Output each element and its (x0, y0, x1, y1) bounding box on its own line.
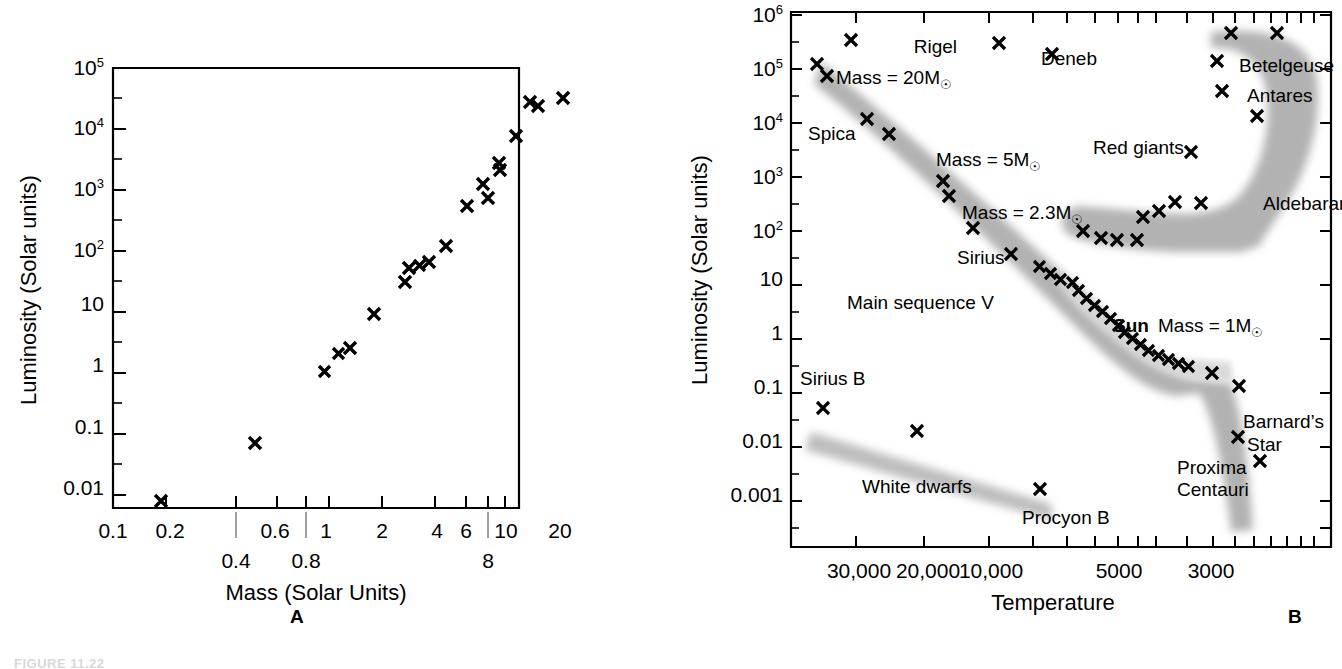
svg-text:0.8: 0.8 (291, 549, 320, 572)
svg-text:Sun: Sun (1113, 315, 1149, 336)
panel-b-x-labels: 30,000 20,000 10,000 5000 3000 (827, 559, 1234, 582)
data-point (1034, 483, 1046, 495)
svg-text:Barnard’s: Barnard’s (1243, 411, 1324, 432)
data-point (911, 425, 923, 437)
data-point (817, 402, 829, 414)
svg-text:0.2: 0.2 (155, 519, 184, 542)
panel-a-y-minor-ticks (113, 98, 122, 464)
svg-text:4: 4 (431, 519, 443, 542)
svg-text:Aldebaran: Aldebaran (1263, 193, 1342, 214)
svg-text:0.4: 0.4 (221, 549, 251, 572)
data-point (557, 92, 569, 104)
data-point (440, 240, 452, 252)
svg-text:Red giants: Red giants (1093, 137, 1184, 158)
data-point (477, 178, 489, 190)
svg-text:Mass = 1M☉: Mass = 1M☉ (1158, 315, 1263, 340)
panel-a-xlabel: Mass (Solar Units) (226, 580, 407, 605)
panel-a-frame (113, 68, 519, 508)
svg-text:Betelgeuse: Betelgeuse (1239, 55, 1334, 76)
svg-text:0.001: 0.001 (730, 483, 783, 506)
svg-text:3000: 3000 (1188, 559, 1235, 582)
svg-text:Mass = 20M☉: Mass = 20M☉ (836, 67, 952, 92)
data-point (845, 34, 857, 46)
svg-text:Sirius: Sirius (957, 247, 1005, 268)
figure-caption: FIGURE 11.22 (14, 656, 105, 669)
data-point (368, 308, 380, 320)
panel-a-letter: A (290, 606, 304, 628)
data-point (993, 37, 1005, 49)
svg-text:Centauri: Centauri (1177, 479, 1249, 500)
svg-text:Rigel: Rigel (914, 36, 957, 57)
panel-b-x-ticks (856, 536, 1314, 547)
svg-text:1: 1 (320, 519, 332, 542)
svg-text:1: 1 (771, 321, 783, 344)
data-point (249, 437, 261, 449)
svg-text:105: 105 (73, 55, 104, 79)
svg-text:30,000: 30,000 (827, 559, 891, 582)
panel-a-plot: 105 104 103 102 10 1 0.1 0.01 Luminosity… (0, 0, 600, 620)
data-point (482, 192, 494, 204)
panel-a-x-labels-row2: 0.4 0.8 8 (221, 549, 493, 572)
panel-a: 105 104 103 102 10 1 0.1 0.01 Luminosity… (0, 0, 600, 620)
data-point (510, 130, 522, 142)
svg-text:Star: Star (1247, 434, 1283, 455)
panel-b-y-ticks-right (1320, 15, 1331, 528)
data-point (403, 262, 415, 274)
svg-text:105: 105 (752, 56, 783, 80)
panel-a-x-ticks (113, 496, 505, 508)
svg-text:6: 6 (460, 519, 472, 542)
panel-a-ylabel: Luminosity (Solar units) (16, 175, 41, 405)
svg-text:10: 10 (494, 519, 517, 542)
svg-text:1: 1 (92, 353, 104, 376)
svg-text:Spica: Spica (808, 123, 856, 144)
panel-a-data-points (155, 92, 569, 507)
svg-text:103: 103 (752, 164, 783, 188)
figure-root: 105 104 103 102 10 1 0.1 0.01 Luminosity… (0, 0, 1342, 669)
panel-b: 106 105 104 103 102 10 1 0.1 0.01 0.001 … (671, 0, 1342, 640)
panel-a-y-axis: 105 104 103 102 10 1 0.1 0.01 (63, 55, 104, 499)
svg-text:103: 103 (73, 176, 104, 200)
data-point (399, 276, 411, 288)
svg-text:Antares: Antares (1247, 85, 1312, 106)
panel-b-y-axis: 106 105 104 103 102 10 1 0.1 0.01 0.001 (730, 2, 783, 506)
data-point (1211, 55, 1223, 67)
data-point (1169, 196, 1181, 208)
svg-text:104: 104 (73, 115, 104, 139)
svg-text:Procyon B: Procyon B (1022, 507, 1110, 528)
svg-text:20,000: 20,000 (896, 559, 960, 582)
svg-text:0.1: 0.1 (98, 519, 127, 542)
svg-text:0.1: 0.1 (754, 375, 783, 398)
svg-text:8: 8 (482, 549, 494, 572)
svg-text:Proxima: Proxima (1177, 457, 1247, 478)
panel-a-x-labels-row1: 0.1 0.2 0.6 1 2 4 6 10 20 (98, 519, 571, 542)
svg-text:10,000: 10,000 (959, 559, 1023, 582)
data-point (344, 342, 356, 354)
svg-text:Sirius B: Sirius B (800, 368, 865, 389)
panel-b-x-ticks-top (856, 12, 1314, 23)
svg-text:104: 104 (752, 110, 783, 134)
data-point (1233, 380, 1245, 392)
svg-text:10: 10 (81, 292, 104, 315)
data-point (1251, 110, 1263, 122)
data-point (1195, 197, 1207, 209)
svg-text:5000: 5000 (1096, 559, 1143, 582)
panel-b-letter: B (1288, 606, 1302, 628)
data-point (1254, 455, 1266, 467)
svg-text:Mass = 5M☉: Mass = 5M☉ (936, 149, 1041, 174)
svg-text:0.01: 0.01 (63, 476, 104, 499)
svg-text:0.1: 0.1 (75, 415, 104, 438)
panel-b-ylabel: Luminosity (Solar units) (687, 155, 712, 385)
svg-text:Deneb: Deneb (1041, 48, 1097, 69)
svg-text:10: 10 (760, 267, 783, 290)
data-point (319, 366, 330, 377)
data-point (333, 348, 344, 359)
data-point (1216, 85, 1228, 97)
svg-text:White dwarfs: White dwarfs (862, 476, 972, 497)
svg-text:0.6: 0.6 (260, 519, 289, 542)
svg-text:106: 106 (752, 2, 783, 26)
svg-text:102: 102 (73, 237, 104, 261)
data-point (461, 200, 473, 212)
svg-text:2: 2 (376, 519, 388, 542)
svg-text:20: 20 (548, 519, 571, 542)
svg-text:102: 102 (752, 218, 783, 242)
